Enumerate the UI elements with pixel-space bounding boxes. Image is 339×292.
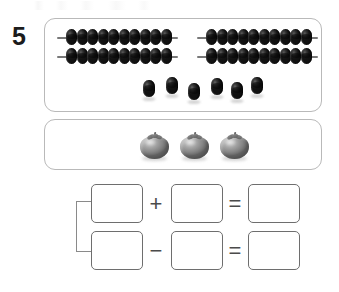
loose-bead [143,80,155,97]
addend-1-box[interactable] [91,184,143,223]
abacus-bead [206,29,217,45]
left-abacus-row-2 [57,48,178,65]
subtrahend-box[interactable] [171,231,223,270]
bead-cluster [66,29,171,45]
tomato [180,132,209,159]
bead-cluster [206,29,311,45]
equation-area: + = − = [0,180,339,285]
tomato-stem [148,132,162,140]
problem-number: 5 [12,24,26,49]
abacus-bead [206,48,217,64]
abacus-bead [248,29,259,45]
tomato [140,132,169,159]
plus-sign: + [145,193,167,215]
abacus-bead [161,48,172,64]
tomato-leaf [231,133,237,137]
loose-bead [188,83,200,100]
abacus-bead [66,48,77,64]
addition-row: + = [0,184,339,225]
abacus-bead [150,48,161,64]
abacus-bead [227,29,238,45]
tomato-leaf [191,133,197,137]
loose-bead [231,82,243,99]
bead-cluster [206,48,311,64]
subtraction-row: − = [0,231,339,272]
abacus-bead [87,48,98,64]
bead-cluster [66,48,171,64]
right-abacus-row-2 [197,48,318,65]
abacus-bead [301,29,312,45]
abacus-bead [129,48,140,64]
minuend-box[interactable] [91,231,143,270]
loose-bead [211,78,223,95]
left-abacus [57,29,178,65]
right-abacus [197,29,318,65]
difference-box[interactable] [248,231,300,270]
addend-2-box[interactable] [171,184,223,223]
equals-sign: = [224,193,246,215]
abacus-bead [227,48,238,64]
right-abacus-row-1 [197,29,318,46]
worksheet-page: 5 [0,0,339,292]
tomato-stem [188,132,202,140]
abacus-bead [161,29,172,45]
loose-bead [251,77,263,94]
left-abacus-row-1 [57,29,178,46]
minus-sign: − [145,240,167,262]
tomato-leaf [151,133,157,137]
abacus-bead [248,48,259,64]
tomato [220,132,249,159]
abacus-bead [269,29,280,45]
abacus-panel [44,18,322,112]
abacus-bead [150,29,161,45]
scan-artifact [34,1,150,10]
loose-beads-group [143,76,265,102]
loose-bead [166,77,178,94]
sum-box[interactable] [248,184,300,223]
abacus-bead [269,48,280,64]
abacus-bead [87,29,98,45]
abacus-bead [108,29,119,45]
tomato-stem [228,132,242,140]
abacus-bead [290,29,301,45]
abacus-bead [108,48,119,64]
fruit-panel [44,119,322,170]
equals-sign: = [224,240,246,262]
abacus-bead [290,48,301,64]
abacus-bead [129,29,140,45]
abacus-bead [301,48,312,64]
tomato-group [140,127,250,165]
abacus-bead [66,29,77,45]
